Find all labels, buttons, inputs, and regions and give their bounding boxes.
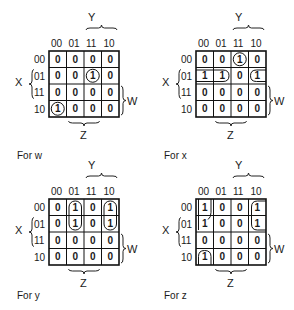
brace-icon: [86, 173, 117, 178]
brace-icon: [216, 269, 247, 274]
brace-icon: [176, 70, 181, 99]
group-loop: [196, 70, 229, 82]
brace-icon: [268, 234, 273, 263]
brace-icon: [121, 86, 126, 115]
brace-icon: [268, 86, 273, 115]
kmap-grid: [0, 0, 147, 155]
kmap-grid: [147, 148, 294, 303]
kmap-grid: [147, 0, 294, 155]
brace-icon: [29, 218, 34, 247]
brace-icon: [69, 121, 100, 126]
group-loop: [251, 70, 267, 82]
kmap-grid: [0, 148, 147, 303]
brace-icon: [121, 234, 126, 263]
kmap-y: YXWZ00011110000111100101010100000000For …: [0, 148, 147, 303]
kmap-z: YXWZ00011110000111101001100100001000For …: [147, 148, 294, 303]
group-loop: [199, 251, 212, 266]
brace-icon: [233, 173, 264, 178]
kmap-w: YXWZ00011110000111100000001000001000For …: [0, 0, 147, 155]
group-loop: [199, 199, 212, 230]
brace-icon: [29, 70, 34, 99]
group-loop: [51, 102, 64, 115]
group-loop: [86, 69, 99, 82]
brace-icon: [69, 269, 100, 274]
brace-icon: [86, 25, 117, 30]
group-loop: [233, 53, 246, 66]
brace-icon: [233, 25, 264, 30]
brace-icon: [216, 121, 247, 126]
brace-icon: [176, 218, 181, 247]
kmap-x: YXWZ00011110000111100010110100000000For …: [147, 0, 294, 155]
